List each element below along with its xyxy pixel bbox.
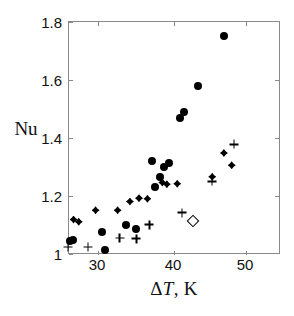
- data-point-plus: [177, 208, 186, 217]
- data-point-filled-circle: [176, 114, 184, 122]
- data-point-filled-diamond: [135, 194, 143, 202]
- data-point-filled-circle: [194, 82, 202, 90]
- data-point-filled-circle: [69, 236, 77, 244]
- data-point-plus: [208, 177, 217, 186]
- x-axis-title-delta: Δ: [150, 278, 163, 299]
- y-tick-label: 1: [14, 246, 62, 263]
- data-point-filled-circle: [165, 159, 173, 167]
- data-point-plus: [115, 233, 124, 242]
- data-point-filled-circle: [98, 228, 106, 236]
- data-point-filled-diamond: [208, 173, 216, 181]
- y-tick-mark: [69, 254, 73, 255]
- data-point-filled-diamond: [70, 216, 78, 224]
- data-point-filled-diamond: [220, 149, 228, 157]
- data-point-plus: [132, 234, 141, 243]
- x-axis-title-variable: T: [163, 278, 174, 299]
- data-point-filled-diamond: [143, 195, 151, 203]
- data-point-plus: [83, 243, 92, 252]
- data-point-filled-circle: [122, 221, 130, 229]
- y-tick-label: 1.8: [14, 14, 62, 31]
- data-point-filled-diamond: [158, 179, 166, 187]
- x-tick-label: 30: [77, 256, 117, 273]
- data-point-filled-circle: [160, 163, 168, 171]
- y-tick-label: 1.6: [14, 72, 62, 89]
- data-point-filled-circle: [66, 237, 74, 245]
- x-axis-title: ΔT, K: [68, 278, 280, 300]
- y-tick-label: 1.2: [14, 188, 62, 205]
- data-point-filled-circle: [220, 32, 228, 40]
- data-point-filled-diamond: [114, 206, 122, 214]
- data-point-plus: [145, 220, 154, 229]
- scatter-plot-figure: 1.8 1.6 1.4 1.2 1 30 40 50 Nu ΔT, K: [0, 0, 294, 316]
- data-point-filled-diamond: [92, 206, 100, 214]
- plot-area: [68, 21, 280, 254]
- data-point-plus: [63, 243, 72, 252]
- data-point-filled-diamond: [163, 180, 171, 188]
- data-point-filled-diamond: [228, 161, 236, 169]
- data-point-filled-circle: [101, 246, 109, 254]
- x-tick-label: 50: [225, 256, 265, 273]
- x-axis-title-units: , K: [174, 278, 198, 299]
- data-point-filled-circle: [151, 183, 159, 191]
- data-point-filled-diamond: [173, 180, 181, 188]
- data-point-filled-circle: [132, 225, 140, 233]
- x-tick-label: 40: [153, 256, 193, 273]
- data-point-open-diamond: [186, 215, 199, 228]
- data-point-filled-circle: [156, 173, 164, 181]
- data-point-filled-circle: [148, 157, 156, 165]
- y-axis-title: Nu: [0, 118, 56, 140]
- data-point-filled-diamond: [126, 198, 134, 206]
- data-point-filled-circle: [180, 108, 188, 116]
- data-point-filled-diamond: [75, 218, 83, 226]
- data-point-plus: [230, 140, 239, 149]
- data-points-layer: [69, 22, 279, 253]
